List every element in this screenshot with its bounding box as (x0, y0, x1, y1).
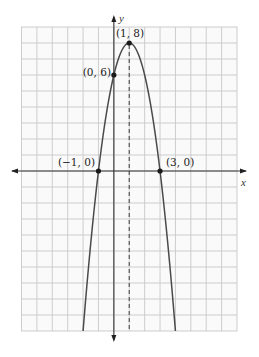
point-y-intercept (111, 72, 116, 77)
point-vertex (127, 40, 132, 45)
point-x-intercept (157, 168, 162, 173)
y-axis-label: y (118, 12, 124, 24)
parabola-graph: y x (1, 8) (0, 6) (−1, 0) (3, 0) (0, 0, 259, 357)
x-intercept-left-label: (−1, 0) (58, 156, 95, 168)
y-intercept-label: (0, 6) (83, 66, 111, 78)
x-axis-label: x (240, 176, 246, 188)
point-x-intercept (96, 168, 101, 173)
x-intercept-right-label: (3, 0) (166, 156, 194, 168)
vertex-label: (1, 8) (116, 27, 144, 39)
